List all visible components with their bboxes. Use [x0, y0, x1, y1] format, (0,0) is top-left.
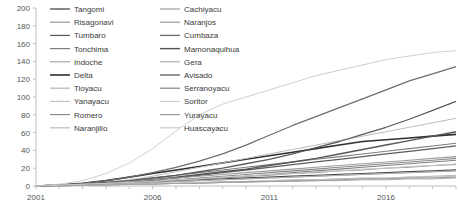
legend-label-avisado: Avisado	[184, 71, 213, 80]
y-tick-label: 80	[21, 111, 30, 120]
x-tick-label: 2001	[27, 193, 45, 202]
y-tick-label: 60	[21, 129, 30, 138]
legend-label-romero: Romero	[74, 111, 103, 120]
legend-label-yanayacu: Yanayacu	[74, 97, 109, 106]
legend-label-huascayacu: Huascayacu	[184, 124, 228, 133]
line-chart: 0204060801001201401601802002001200620112…	[0, 0, 458, 216]
legend-label-risagonavi: Risagonavi	[74, 18, 114, 27]
y-tick-label: 200	[17, 4, 31, 13]
legend-label-tonchima: Tonchima	[74, 45, 109, 54]
legend-label-gera: Gera	[184, 58, 202, 67]
legend-label-tumbaro: Tumbaro	[74, 31, 106, 40]
legend-label-delta: Delta	[74, 71, 93, 80]
legend-label-indoche: Indoche	[74, 58, 103, 67]
legend-label-serranoyacu: Serranoyacu	[184, 84, 229, 93]
y-tick-label: 120	[17, 75, 31, 84]
y-tick-label: 160	[17, 40, 31, 49]
y-tick-label: 20	[21, 164, 30, 173]
y-tick-label: 100	[17, 93, 31, 102]
y-tick-label: 140	[17, 57, 31, 66]
chart-container: 0204060801001201401601802002001200620112…	[0, 0, 458, 216]
y-tick-label: 40	[21, 146, 30, 155]
legend-label-yurayacu: Yurayacu	[184, 111, 217, 120]
y-tick-label: 180	[17, 22, 31, 31]
legend-label-cumbaza: Cumbaza	[184, 31, 219, 40]
legend-label-naranjillo: Naranjillo	[74, 124, 108, 133]
legend-label-naranjos: Naranjos	[184, 18, 216, 27]
x-tick-label: 2016	[377, 193, 395, 202]
legend-label-tangomi: Tangomi	[74, 5, 104, 14]
x-tick-label: 2011	[261, 193, 279, 202]
x-tick-label: 2006	[144, 193, 162, 202]
legend-label-cachiyacu: Cachiyacu	[184, 5, 221, 14]
legend-label-tioyacu: Tioyacu	[74, 84, 102, 93]
legend-label-mamonaquihua: Mamonaquihua	[184, 45, 240, 54]
y-tick-label: 0	[26, 182, 31, 191]
legend-label-soritor: Soritor	[184, 97, 208, 106]
